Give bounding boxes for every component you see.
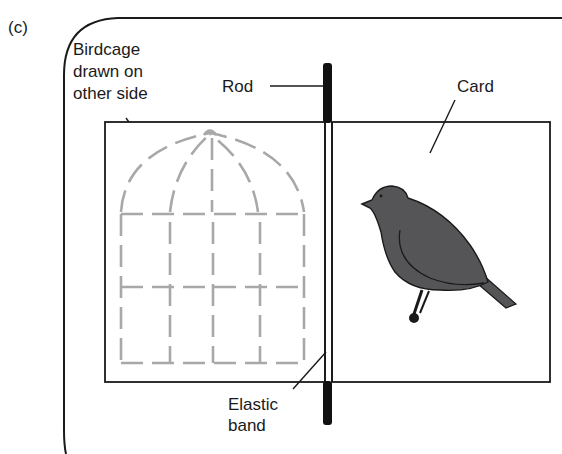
elastic-band-label: Elastic band xyxy=(228,395,279,435)
svg-text:Birdcage: Birdcage xyxy=(73,40,140,59)
rod-label: Rod xyxy=(222,77,253,96)
card-left-panel xyxy=(105,122,325,382)
birdcage-label: Birdcage drawn on other side xyxy=(73,40,148,103)
svg-text:band: band xyxy=(228,416,266,435)
rod xyxy=(323,63,332,425)
toy-diagram: (c) Birdcage drawn on other side xyxy=(0,0,562,454)
svg-text:other side: other side xyxy=(73,84,148,103)
svg-text:drawn on: drawn on xyxy=(73,62,143,81)
svg-text:Elastic: Elastic xyxy=(228,395,279,414)
card-label: Card xyxy=(457,77,494,96)
panel-label: (c) xyxy=(8,18,28,37)
